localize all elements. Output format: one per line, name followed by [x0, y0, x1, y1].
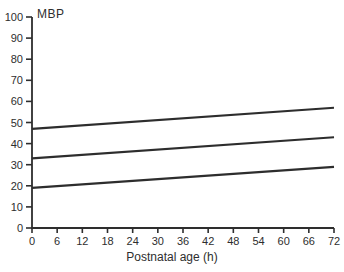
x-tick-label: 0	[29, 235, 35, 247]
x-tick-label: 12	[76, 235, 88, 247]
x-axis-title: Postnatal age (h)	[0, 250, 344, 264]
upper-percentile-line	[32, 108, 334, 129]
x-tick-label: 36	[177, 235, 189, 247]
x-tick-label: 30	[152, 235, 164, 247]
y-tick-label: 100	[5, 11, 23, 23]
y-tick-label: 60	[11, 95, 23, 107]
y-tick-label: 30	[11, 159, 23, 171]
y-tick-label: 50	[11, 117, 23, 129]
y-tick-label: 70	[11, 74, 23, 86]
y-tick-label: 10	[11, 201, 23, 213]
axis-spine	[32, 17, 334, 228]
x-tick-label: 24	[127, 235, 139, 247]
x-tick-label: 6	[54, 235, 60, 247]
x-tick-label: 42	[202, 235, 214, 247]
y-tick-label: 90	[11, 32, 23, 44]
chart-canvas: 0102030405060708090100061218243036424854…	[0, 0, 344, 272]
y-tick-label: 40	[11, 138, 23, 150]
x-tick-label: 48	[227, 235, 239, 247]
x-tick-label: 66	[303, 235, 315, 247]
mbp-percentile-chart: 0102030405060708090100061218243036424854…	[0, 0, 344, 272]
x-tick-label: 54	[252, 235, 264, 247]
x-tick-label: 60	[278, 235, 290, 247]
x-tick-label: 18	[101, 235, 113, 247]
y-tick-label: 20	[11, 180, 23, 192]
y-tick-label: 0	[17, 222, 23, 234]
x-tick-label: 72	[328, 235, 340, 247]
y-tick-label: 80	[11, 53, 23, 65]
lower-percentile-line	[32, 167, 334, 188]
median-line	[32, 137, 334, 158]
y-axis-title: MBP	[37, 7, 65, 21]
